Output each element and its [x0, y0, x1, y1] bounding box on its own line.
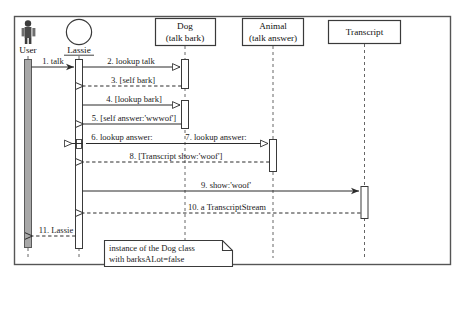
message-label-11: 11. Lassie [39, 225, 74, 235]
participant-sublabel-animal: (talk answer) [249, 33, 297, 43]
participant-label-dog: Dog [177, 21, 193, 31]
activation-lassie [76, 60, 83, 249]
message-label-3: 3. [self bark] [111, 75, 155, 85]
actor-body-icon [25, 27, 32, 38]
participant-label-user: User [19, 45, 36, 55]
message-label-2: 2. lookup talk [107, 56, 155, 66]
participant-label-animal: Animal [259, 21, 287, 31]
participant-head-dog[interactable]: Dog (talk bark) [156, 19, 216, 46]
participant-label-transcript: Transcript [346, 27, 384, 37]
actor-head-icon [25, 20, 31, 26]
message-5[interactable]: 5. [self answer:'wwwof'] [84, 113, 182, 124]
message-label-9: 9. show:'woof' [201, 180, 251, 190]
activation-dog-1 [182, 60, 189, 89]
activation-transcript [361, 187, 368, 219]
actor-arm-left-icon [22, 28, 25, 36]
message-11[interactable]: 11. Lassie [33, 225, 76, 236]
participant-head-lassie[interactable]: Lassie [64, 19, 94, 55]
participant-head-animal[interactable]: Animal (talk answer) [243, 19, 304, 46]
actor-leg-left-icon [25, 38, 28, 44]
note-line-1: instance of the Dog class [109, 243, 196, 253]
message-label-4: 4. [lookup bark] [106, 94, 162, 104]
message-label-8: 8. [Transcript show:'woof'] [130, 151, 223, 161]
actor-arm-right-icon [32, 28, 35, 36]
participant-sublabel-dog: (talk bark) [166, 33, 205, 43]
message-label-10: 10. a TranscriptStream [188, 202, 266, 212]
actor-leg-right-icon [29, 38, 32, 44]
participant-label-lassie: Lassie [67, 45, 90, 55]
note-dog-instance[interactable]: instance of the Dog class with barksALot… [105, 241, 233, 267]
message-label-5: 5. [self answer:'wwwof'] [92, 113, 177, 123]
uml-sequence-diagram: User Lassie Dog (talk bark) Animal (talk… [0, 0, 465, 310]
message-label-7: 7. lookup answer: [185, 132, 246, 142]
activation-dog-2 [182, 101, 189, 129]
note-line-2: with barksALot=false [109, 254, 184, 264]
message-label-1: 1. talk [42, 56, 64, 66]
activation-animal [270, 140, 277, 172]
message-label-6: 6. lookup answer: [91, 132, 152, 142]
diagram-canvas: User Lassie Dog (talk bark) Animal (talk… [0, 0, 465, 310]
activation-user [25, 60, 32, 248]
participant-head-transcript[interactable]: Transcript [329, 21, 401, 44]
instance-circle-icon [66, 19, 91, 44]
